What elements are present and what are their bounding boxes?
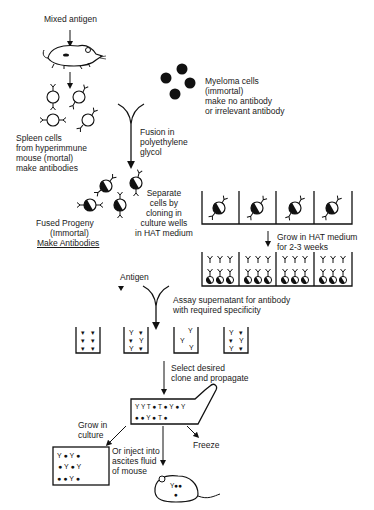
freeze-label: Freeze bbox=[193, 440, 219, 450]
svg-text:Y●●: Y●● bbox=[170, 482, 182, 489]
grow-culture-arrow bbox=[108, 426, 126, 444]
svg-text:▾: ▾ bbox=[139, 329, 143, 336]
culture-flask-icon: Y Y T ● T ● Y ● Y ● ● Y ● T ● bbox=[131, 384, 217, 424]
diagram-artwork: ▾▾▾▾▾▾ Y▾▾YY▾ YYY Y▾▾YY▾ Y Y T ● T ● Y ●… bbox=[0, 0, 374, 510]
svg-text:Y: Y bbox=[129, 345, 134, 352]
culture-tank-icon: Y ● Y ● ● Y ● Y ● ● Y ● bbox=[53, 447, 109, 485]
svg-text:Y Y T ● T ● Y ● Y: Y Y T ● T ● Y ● Y bbox=[135, 403, 186, 410]
spleen-cells-icon bbox=[40, 84, 98, 132]
svg-text:▾: ▾ bbox=[239, 329, 243, 336]
separate-cells-label: Separate cells by cloning in culture wel… bbox=[135, 188, 193, 238]
svg-text:▾: ▾ bbox=[91, 329, 95, 336]
myeloma-cells-label: Myeloma cells (immortal) make no antibod… bbox=[205, 76, 284, 116]
svg-text:● ● Y ●: ● ● Y ● bbox=[57, 475, 80, 482]
svg-text:Y: Y bbox=[139, 337, 144, 344]
svg-text:▾: ▾ bbox=[229, 337, 233, 344]
svg-text:Y: Y bbox=[229, 329, 234, 336]
grow-hat-label: Grow in HAT medium for 2-3 weeks bbox=[277, 232, 357, 252]
fusion-label: Fusion in polyethylene glycol bbox=[140, 127, 188, 157]
svg-text:Y: Y bbox=[189, 344, 194, 351]
immunized-mouse-icon bbox=[43, 30, 106, 86]
ascites-mouse-icon: Y●● ● bbox=[155, 476, 220, 502]
assay-wells bbox=[76, 327, 248, 353]
svg-text:Y: Y bbox=[188, 327, 193, 334]
svg-text:● ● Y ● T ●: ● ● Y ● T ● bbox=[135, 414, 168, 421]
antigen-triangle-icon bbox=[118, 286, 124, 291]
select-clone-label: Select desired clone and propagate bbox=[171, 363, 249, 383]
freeze-arrow bbox=[187, 426, 197, 436]
svg-text:▾: ▾ bbox=[91, 337, 95, 344]
svg-text:Y: Y bbox=[180, 337, 185, 344]
assay-arrow bbox=[143, 286, 169, 326]
spleen-cells-label: Spleen cells from hyperimmune mouse (mor… bbox=[16, 133, 87, 173]
svg-text:● Y ● Y: ● Y ● Y bbox=[58, 463, 82, 470]
svg-text:Y: Y bbox=[229, 345, 234, 352]
grow-culture-label: Grow in culture bbox=[78, 420, 107, 440]
myeloma-cells-icon bbox=[161, 64, 196, 100]
svg-text:Y: Y bbox=[239, 337, 244, 344]
svg-text:▾: ▾ bbox=[81, 329, 85, 336]
fused-progeny-icon bbox=[77, 170, 142, 218]
mixed-antigen-label: Mixed antigen bbox=[44, 14, 97, 24]
svg-text:▾: ▾ bbox=[239, 345, 243, 352]
make-antibodies-label: Make Antibodies bbox=[37, 238, 99, 248]
svg-text:●: ● bbox=[174, 491, 178, 498]
immortal-label: (Immortal) bbox=[50, 228, 89, 238]
svg-text:Y: Y bbox=[129, 329, 134, 336]
assay-label: Assay supernatant for antibody with requ… bbox=[173, 295, 290, 315]
fused-progeny-label: Fused Progeny bbox=[36, 218, 94, 228]
antigen-label: Antigen bbox=[120, 272, 149, 282]
svg-text:Y ● Y ●: Y ● Y ● bbox=[57, 452, 80, 459]
svg-text:▾: ▾ bbox=[91, 345, 95, 352]
svg-text:▾: ▾ bbox=[129, 337, 133, 344]
svg-text:▾: ▾ bbox=[81, 345, 85, 352]
inject-ascites-label: Or inject into ascites fluid of mouse bbox=[112, 446, 160, 476]
svg-text:▾: ▾ bbox=[139, 345, 143, 352]
svg-text:▾: ▾ bbox=[81, 337, 85, 344]
